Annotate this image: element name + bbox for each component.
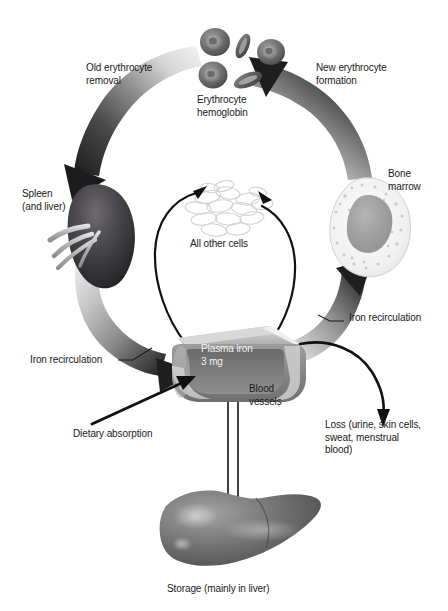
label-iron-recirculation-right: Iron recirculation bbox=[349, 312, 421, 325]
label-storage: Storage (mainly in liver) bbox=[167, 583, 270, 596]
label-loss: Loss (urine, skin cells, sweat, menstrua… bbox=[325, 419, 421, 457]
label-new-erythrocyte-formation: New erythrocyte formation bbox=[316, 62, 387, 87]
erythrocyte-2 bbox=[233, 32, 254, 61]
label-spleen-and-liver: Spleen (and liver) bbox=[22, 188, 65, 213]
label-old-erythrocyte-removal: Old erythrocyte removal bbox=[86, 62, 152, 87]
label-all-other-cells: All other cells bbox=[190, 238, 248, 251]
label-dietary-absorption: Dietary absorption bbox=[73, 428, 152, 441]
label-erythrocyte-hemoglobin: Erythrocyte hemoglobin bbox=[197, 94, 248, 119]
all-other-cells-cluster bbox=[184, 179, 273, 238]
cells-arrowhead-left bbox=[193, 186, 207, 199]
erythrocyte-4 bbox=[199, 62, 228, 89]
label-plasma-iron: Plasma iron 3 mg bbox=[201, 343, 253, 368]
label-blood-vessels: Blood vessels bbox=[249, 383, 282, 408]
erythrocyte-1 bbox=[200, 28, 230, 56]
iron-cycle-diagram: Old erythrocyte removal New erythrocyte … bbox=[0, 0, 448, 611]
label-iron-recirculation-left: Iron recirculation bbox=[30, 354, 102, 367]
liver-organ bbox=[160, 491, 321, 566]
flow-dietary-absorption bbox=[92, 376, 196, 424]
label-bone-marrow: Bone marrow bbox=[388, 168, 421, 193]
diagram-artwork bbox=[0, 0, 448, 611]
erythrocyte-3 bbox=[257, 39, 285, 65]
